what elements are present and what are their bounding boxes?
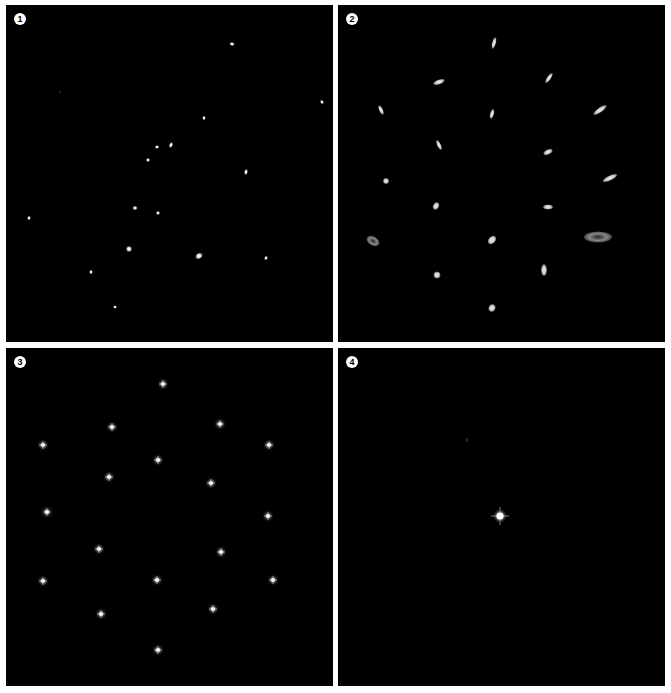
panel-number-badge: 4 (346, 356, 358, 368)
diffraction-spot (435, 139, 443, 151)
diffraction-spot (486, 234, 498, 246)
diffraction-spot (27, 215, 32, 221)
diffraction-spot (217, 548, 225, 556)
diffraction-spot (113, 306, 117, 309)
diffraction-spot (264, 512, 272, 520)
diffraction-spot (43, 508, 51, 516)
diffraction-spot (95, 545, 103, 553)
diffraction-spot (491, 507, 509, 525)
panel-number-badge: 3 (14, 356, 26, 368)
diffraction-spot (383, 178, 389, 184)
diffraction-spot (156, 211, 160, 215)
diffraction-spot (159, 380, 167, 388)
diffraction-spot (203, 116, 206, 121)
diffraction-spot (153, 576, 161, 584)
diffraction-spot (146, 158, 150, 162)
diffraction-spot (126, 246, 132, 252)
diffraction-spot (542, 148, 553, 157)
diffraction-spot (584, 232, 612, 243)
panel-2: 2 (338, 5, 665, 342)
diffraction-spot (105, 473, 113, 481)
diffraction-spot (244, 168, 248, 175)
diffraction-spot (319, 99, 324, 105)
diffraction-spot (264, 255, 269, 261)
diffraction-spot (229, 42, 236, 47)
diffraction-spot (39, 441, 47, 449)
panel-number-badge: 2 (346, 13, 358, 25)
diffraction-spot (487, 303, 497, 313)
diffraction-spot (543, 205, 553, 210)
panel-1: 1 (6, 5, 333, 342)
panel-4: 4 (338, 348, 665, 686)
diffraction-spot (59, 91, 61, 93)
diffraction-spot (489, 109, 495, 120)
diffraction-spot (541, 264, 547, 276)
diffraction-spot (168, 141, 173, 149)
diffraction-spot (154, 456, 162, 464)
diffraction-spot (90, 270, 93, 275)
panel-3: 3 (6, 348, 333, 686)
diffraction-spot (365, 234, 382, 249)
diffraction-spot (431, 201, 440, 211)
diffraction-spot (544, 72, 554, 84)
diffraction-spot (269, 576, 277, 584)
diffraction-spot (434, 272, 441, 279)
diffraction-spot (194, 252, 204, 261)
diffraction-spot (216, 420, 224, 428)
diffraction-spot (592, 103, 608, 116)
diffraction-spot (465, 438, 469, 442)
diffraction-spot (133, 206, 138, 210)
diffraction-spot (433, 78, 446, 87)
diffraction-spot (602, 172, 619, 183)
panel-number-badge: 1 (14, 13, 26, 25)
diffraction-spot (39, 577, 47, 585)
diffraction-spot (97, 610, 105, 618)
diffraction-spot (207, 479, 215, 487)
diffraction-spot (265, 441, 273, 449)
diffraction-spot (154, 145, 160, 149)
diffraction-spot (209, 605, 217, 613)
diffraction-spot (377, 105, 385, 116)
diffraction-spot (491, 37, 498, 50)
diffraction-spot (108, 423, 116, 431)
diffraction-spot (154, 646, 162, 654)
